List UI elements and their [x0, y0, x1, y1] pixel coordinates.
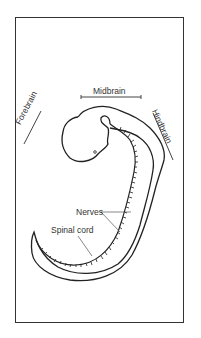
label-spinal-cord: Spinal cord [51, 226, 94, 235]
forebrain-shape [62, 116, 110, 161]
spinal-cord-pointer [78, 236, 92, 256]
embryo-outer-outline [32, 106, 165, 280]
nerve-ticks [41, 127, 138, 267]
eye-dot [94, 151, 97, 154]
spinal-cord-line [36, 124, 135, 265]
label-nerves: Nerves [76, 208, 103, 217]
label-midbrain: Midbrain [93, 87, 126, 96]
nerves-pointer [101, 212, 131, 232]
embryo-illustration [0, 0, 201, 338]
